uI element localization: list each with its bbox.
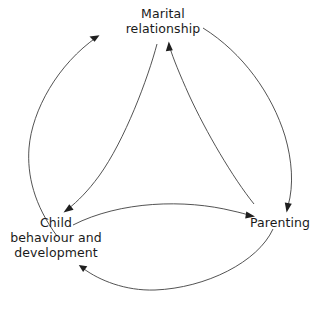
edge-marital-to-parenting — [203, 28, 292, 213]
edge-parenting-to-marital-path — [170, 48, 254, 204]
node-marital-line-2: relationship — [111, 21, 215, 36]
node-marital-relationship: Marital relationship — [111, 6, 215, 36]
edge-marital-to-parenting-arrowhead — [285, 203, 292, 213]
edge-child-to-marital-arrowhead — [90, 35, 100, 41]
node-child-line-1: Child — [2, 215, 110, 230]
edge-marital-to-child-path — [68, 44, 157, 209]
node-parenting: Parenting — [240, 215, 320, 230]
diagram-edges-layer — [0, 0, 322, 312]
diagram-canvas: Marital relationship Child behaviour and… — [0, 0, 322, 312]
node-child-behaviour-development: Child behaviour and development — [2, 215, 110, 260]
node-marital-line-1: Marital — [111, 6, 215, 21]
node-child-line-3: development — [2, 245, 110, 260]
edge-parenting-to-marital-arrowhead — [166, 42, 173, 52]
edge-parenting-to-marital — [166, 42, 254, 205]
edge-child-to-marital-path — [29, 37, 97, 236]
edge-marital-to-parenting-path — [203, 28, 292, 206]
node-child-line-2: behaviour and — [2, 230, 110, 245]
edge-child-to-marital — [29, 35, 100, 236]
edge-parenting-to-child-path — [84, 229, 273, 290]
edge-marital-to-child — [64, 44, 158, 213]
node-parenting-line-1: Parenting — [240, 215, 320, 230]
